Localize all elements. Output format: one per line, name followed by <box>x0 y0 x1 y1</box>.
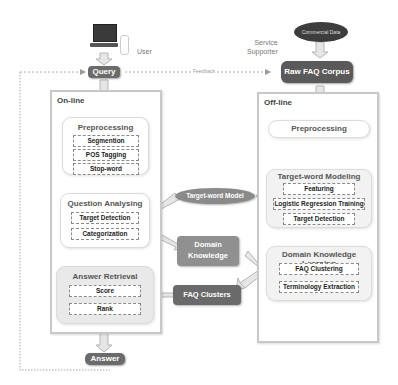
step-score: Score <box>69 285 141 297</box>
service-label-line1: Service <box>247 38 278 47</box>
domain-knowledge-line1: Domain <box>177 239 239 250</box>
step-faq-clustering: FAQ Clustering <box>279 263 359 275</box>
step-rank: Rank <box>69 303 141 315</box>
domain-knowledge-line2: Knowledge <box>177 250 239 261</box>
offline-preprocessing-module: Preprocessing <box>268 120 370 138</box>
step-featuring: Featuring <box>283 183 355 195</box>
step-pos-tagging: POS Tagging <box>73 149 139 161</box>
answer-node: Answer <box>85 353 125 365</box>
faq-clusters-node: FAQ Clusters <box>173 285 241 305</box>
answer-retrieval-module: Answer Retrieval Score Rank <box>56 266 154 324</box>
question-analysing-module: Question Analysing Target Detection Cate… <box>60 193 150 248</box>
domain-knowledge-learning-module: Domain Knowledge Learning FAQ Clustering… <box>266 246 372 301</box>
step-segmention: Segmention <box>73 135 139 147</box>
offline-preprocessing-title: Preprocessing <box>269 124 369 133</box>
raw-faq-corpus-node: Raw FAQ Corpus <box>281 61 353 83</box>
online-title: On-line <box>57 96 85 105</box>
online-preprocessing-title: Preprocessing <box>63 123 148 132</box>
feedback-label: Feedback <box>192 68 216 74</box>
step-logistic-regression-training: Logistic Regression Training <box>273 198 365 210</box>
step-stop-word: Stop-word <box>73 163 139 175</box>
step-categorization: Categorization <box>71 228 139 240</box>
user-icon <box>120 35 129 55</box>
query-node: Query <box>88 66 120 78</box>
answer-retrieval-title: Answer Retrieval <box>57 272 153 281</box>
target-word-model-node: Target-word Model <box>175 188 255 204</box>
service-label-line2: Supporter <box>247 47 278 56</box>
offline-title: Off-line <box>264 98 292 107</box>
target-word-modeling-module: Target-word Modeling Featuring Logistic … <box>266 169 372 228</box>
question-analysing-title: Question Analysing <box>61 199 149 208</box>
target-word-modeling-title: Target-word Modeling <box>267 172 371 181</box>
commercial-data-node: Commercial Data <box>294 22 348 42</box>
step-target-detection-offline: Target Detection <box>283 213 355 225</box>
step-target-detection: Target Detection <box>71 212 139 224</box>
user-label: User <box>137 48 152 55</box>
online-preprocessing-module: Preprocessing Segmention POS Tagging Sto… <box>62 117 149 175</box>
domain-knowledge-node: Domain Knowledge <box>177 236 239 266</box>
service-supporter-label: Service Supporter <box>247 38 278 56</box>
step-terminology-extraction: Terminology Extraction <box>279 281 359 293</box>
laptop-icon <box>90 24 118 52</box>
